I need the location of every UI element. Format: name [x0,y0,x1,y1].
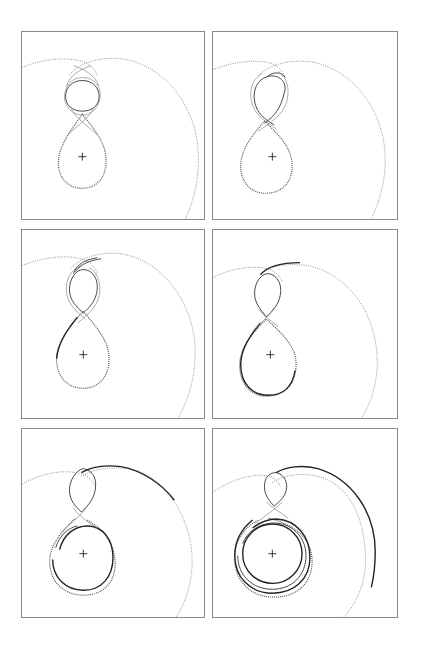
crossing-strands [253,307,279,331]
left-dotted-circle [22,257,97,274]
panel-5 [21,428,205,618]
trajectory-plot-5 [22,429,204,617]
lower-lobe [241,121,293,193]
panel-1 [21,31,205,220]
middle-ring [238,523,306,589]
twisted-upper-loop [254,73,285,125]
panel-4 [212,229,398,419]
big-dotted-circle [71,253,195,418]
trajectory-plot-2 [213,32,397,219]
lower-lobe [57,311,109,388]
left-dotted-circle [213,475,280,492]
upper-loop [69,469,95,513]
panel-2 [212,31,398,220]
panel-3 [21,229,205,419]
upper-loop [66,80,100,111]
big-dotted-circle [259,61,386,219]
upper-loop [255,274,281,318]
big-dotted-circle [69,58,198,219]
trajectory-plot-3 [22,230,204,418]
upper-loop-outer [66,266,99,323]
crossing-strands [67,66,100,135]
crossing-strands [255,502,289,524]
trajectory-plot-4 [213,230,397,418]
panel-6 [212,428,398,618]
upper-loop-outer [65,78,101,116]
lower-lobe [240,319,296,396]
upper-loop [69,270,97,314]
trajectory-plot-6 [213,429,397,617]
lower-lobe [58,114,106,188]
big-dotted-circle [260,265,377,418]
lower-lobe-left-thick [57,317,78,359]
big-dotted-circle [81,468,192,617]
trajectory-plot-1 [22,32,204,219]
outer-lobe [50,518,115,595]
left-dotted-circle [22,472,95,487]
lower-lobe-thick [241,323,295,395]
